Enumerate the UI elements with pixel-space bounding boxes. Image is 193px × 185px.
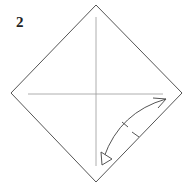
origami-diagram [0, 0, 193, 185]
paper-square-outline [11, 5, 182, 182]
arrow-head-unfold-icon [101, 152, 112, 165]
tick-mark-edge [132, 132, 139, 137]
fold-arrow-curve [104, 99, 166, 157]
